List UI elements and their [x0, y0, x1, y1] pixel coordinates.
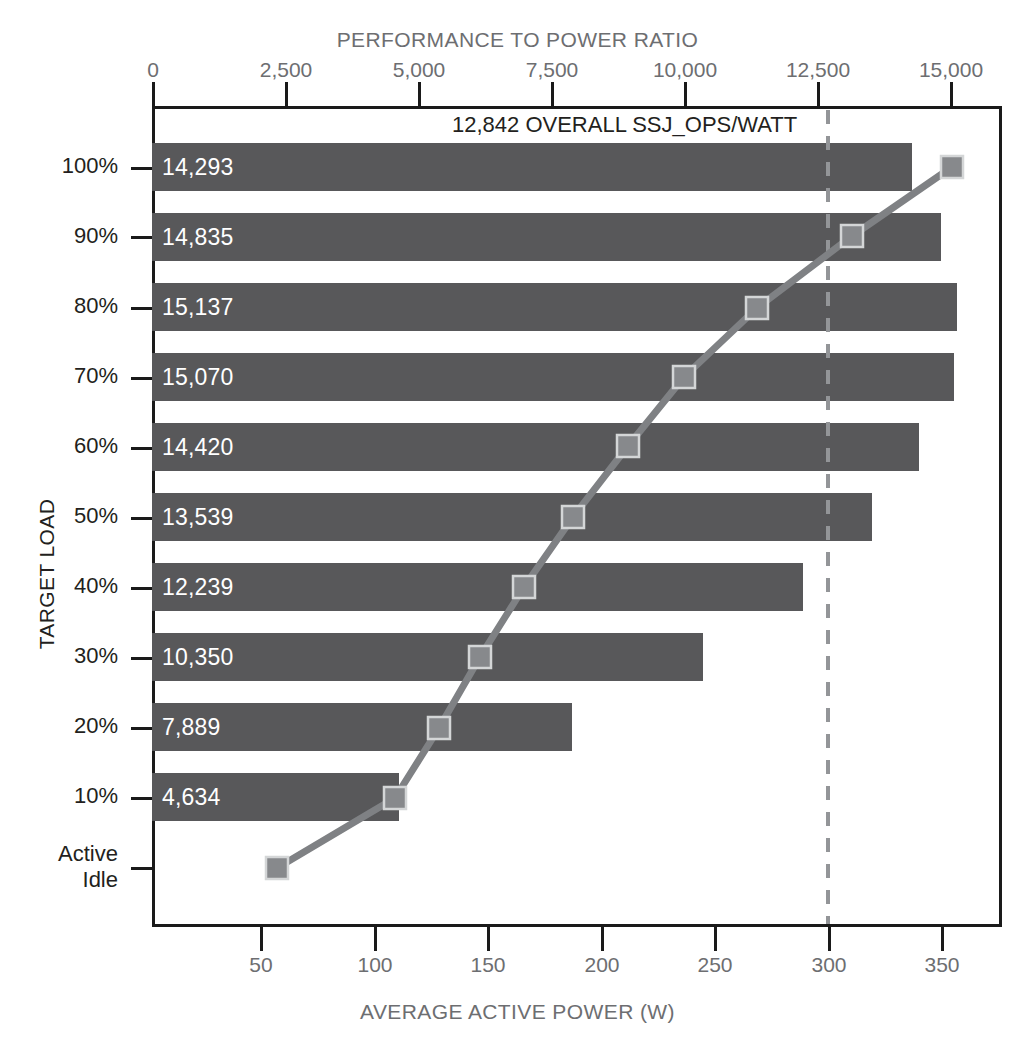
bottom-tick-label-350: 350	[924, 953, 959, 977]
y-tick-mark-10	[131, 797, 153, 800]
top-tick-label-4: 10,000	[653, 58, 717, 82]
bar-10: 4,634	[152, 773, 399, 821]
y-tick-mark-100	[131, 167, 153, 170]
bar-30: 10,350	[152, 633, 703, 681]
top-tick-mark-3	[551, 82, 554, 106]
y-tick-label-20: 20%	[74, 714, 118, 737]
bottom-tick-mark-150	[487, 927, 490, 951]
y-tick-label-80: 80%	[74, 294, 118, 317]
y-tick-label-90: 90%	[74, 224, 118, 247]
y-tick-mark-50	[131, 517, 153, 520]
bar-50: 13,539	[152, 493, 872, 541]
bar-value-40: 12,239	[162, 574, 234, 601]
top-axis-title: PERFORMANCE TO POWER RATIO	[0, 28, 1035, 52]
bottom-tick-mark-100	[374, 927, 377, 951]
y-tick-mark-70	[131, 377, 153, 380]
y-tick-label-40: 40%	[74, 574, 118, 597]
bottom-tick-label-300: 300	[811, 953, 846, 977]
y-tick-mark-20	[131, 727, 153, 730]
top-tick-label-2: 5,000	[393, 58, 446, 82]
bottom-tick-mark-50	[260, 927, 263, 951]
y-tick-mark-40	[131, 587, 153, 590]
y-tick-mark-active-idle	[131, 867, 153, 870]
y-tick-label-active-idle-line1: Active	[58, 842, 118, 865]
bottom-tick-label-100: 100	[357, 953, 392, 977]
bar-value-20: 7,889	[162, 714, 221, 741]
y-tick-label-100: 100%	[62, 154, 118, 177]
y-axis-title: TARGET LOAD	[35, 424, 59, 724]
chart-root: PERFORMANCE TO POWER RATIO AVERAGE ACTIV…	[0, 0, 1035, 1050]
y-tick-mark-30	[131, 657, 153, 660]
bottom-tick-label-250: 250	[697, 953, 732, 977]
bar-60: 14,420	[152, 423, 919, 471]
y-tick-label-50: 50%	[74, 504, 118, 527]
top-tick-mark-2	[418, 82, 421, 106]
y-tick-mark-80	[131, 307, 153, 310]
bottom-tick-label-150: 150	[470, 953, 505, 977]
y-tick-label-30: 30%	[74, 644, 118, 667]
bottom-axis-title: AVERAGE ACTIVE POWER (W)	[0, 1000, 1035, 1024]
top-tick-label-3: 7,500	[526, 58, 579, 82]
top-tick-label-0: 0	[147, 58, 159, 82]
bar-80: 15,137	[152, 283, 957, 331]
bottom-tick-mark-350	[941, 927, 944, 951]
bottom-tick-mark-250	[714, 927, 717, 951]
top-tick-mark-4	[684, 82, 687, 106]
top-tick-mark-1	[285, 82, 288, 106]
bar-value-10: 4,634	[162, 784, 221, 811]
bar-value-100: 14,293	[162, 154, 234, 181]
bar-20: 7,889	[152, 703, 572, 751]
y-tick-label-active-idle-line2: Idle	[83, 868, 118, 891]
bar-40: 12,239	[152, 563, 803, 611]
bar-value-30: 10,350	[162, 644, 234, 671]
y-tick-mark-60	[131, 447, 153, 450]
y-tick-mark-90	[131, 236, 153, 239]
bottom-tick-label-50: 50	[249, 953, 272, 977]
top-tick-label-6: 15,000	[919, 58, 983, 82]
bar-value-80: 15,137	[162, 294, 234, 321]
top-tick-mark-5	[817, 82, 820, 106]
bottom-tick-mark-200	[601, 927, 604, 951]
bar-value-60: 14,420	[162, 434, 234, 461]
bar-90: 14,835	[152, 213, 941, 261]
top-tick-label-5: 12,500	[786, 58, 850, 82]
top-tick-mark-0	[152, 82, 155, 106]
y-tick-label-70: 70%	[74, 364, 118, 387]
overall-ratio-annotation: 12,842 OVERALL SSJ_OPS/WATT	[452, 112, 797, 138]
bottom-tick-label-200: 200	[584, 953, 619, 977]
bottom-tick-mark-300	[828, 927, 831, 951]
bar-value-90: 14,835	[162, 224, 234, 251]
top-tick-label-1: 2,500	[260, 58, 313, 82]
bar-100: 14,293	[152, 143, 912, 191]
top-tick-mark-6	[950, 82, 953, 106]
bar-70: 15,070	[152, 353, 954, 401]
bar-value-70: 15,070	[162, 364, 234, 391]
y-tick-label-10: 10%	[74, 784, 118, 807]
bar-value-50: 13,539	[162, 504, 234, 531]
y-tick-label-60: 60%	[74, 434, 118, 457]
